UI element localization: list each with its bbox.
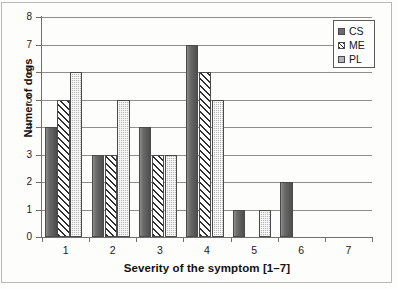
x-axis-tick [372, 237, 373, 242]
y-axis-tick-label: 1 [12, 205, 32, 215]
bar-cs-cat-4 [186, 45, 198, 238]
legend-label: PL [349, 54, 362, 65]
x-axis-line [41, 237, 372, 238]
y-axis-tick-label: 2 [12, 177, 32, 187]
chart-figure: Numer of dogs 012345678 1234567 Severity… [0, 0, 398, 289]
y-axis-tick-label: 6 [12, 67, 32, 77]
bar-pl-cat-5 [259, 210, 271, 238]
y-axis-tick-label: 5 [12, 95, 32, 105]
bar-cs-cat-1 [45, 127, 57, 237]
x-axis-tick [325, 237, 326, 242]
bar-me-cat-3 [152, 155, 164, 238]
bar-me-cat-1 [57, 100, 69, 238]
bar-cs-cat-2 [92, 155, 104, 238]
y-axis-tick-label: 4 [12, 122, 32, 132]
bar-cs-cat-6 [280, 182, 292, 237]
y-axis-tick-label: 8 [12, 12, 32, 22]
x-axis-title: Severity of the symptom [1–7] [42, 262, 372, 274]
bar-me-cat-4 [199, 72, 211, 237]
legend-label: CS [349, 26, 364, 37]
x-axis-tick-label: 4 [195, 245, 219, 256]
y-axis-tick-label: 0 [12, 232, 32, 242]
bar-pl-cat-2 [117, 100, 129, 238]
x-axis-tick [183, 237, 184, 242]
chart-legend: CSMEPL [333, 20, 375, 68]
legend-label: ME [349, 40, 365, 51]
legend-item-cs: CS [338, 24, 374, 38]
x-axis-tick-label: 2 [101, 245, 125, 256]
x-axis-tick [42, 237, 43, 242]
legend-swatch-cs-icon [338, 28, 345, 35]
x-axis-tick-label: 1 [54, 245, 78, 256]
x-axis-tick [231, 237, 232, 242]
x-axis-tick [89, 237, 90, 242]
x-axis-tick-label: 7 [336, 245, 360, 256]
bar-cs-cat-5 [233, 210, 245, 238]
y-axis-tick-label: 7 [12, 40, 32, 50]
x-axis-tick [278, 237, 279, 242]
bar-me-cat-2 [105, 155, 117, 238]
x-axis-tick-label: 6 [289, 245, 313, 256]
x-axis-tick-label: 5 [242, 245, 266, 256]
x-axis-tick-label: 3 [148, 245, 172, 256]
y-axis-tick-label: 3 [12, 150, 32, 160]
bar-pl-cat-1 [70, 72, 82, 237]
plot-area [42, 17, 372, 237]
legend-swatch-pl-icon [338, 56, 345, 63]
bar-pl-cat-4 [212, 100, 224, 238]
bar-cs-cat-3 [139, 127, 151, 237]
x-axis-tick [136, 237, 137, 242]
bar-pl-cat-3 [165, 155, 177, 238]
legend-swatch-me-icon [338, 42, 345, 49]
legend-item-pl: PL [338, 52, 374, 66]
legend-item-me: ME [338, 38, 374, 52]
